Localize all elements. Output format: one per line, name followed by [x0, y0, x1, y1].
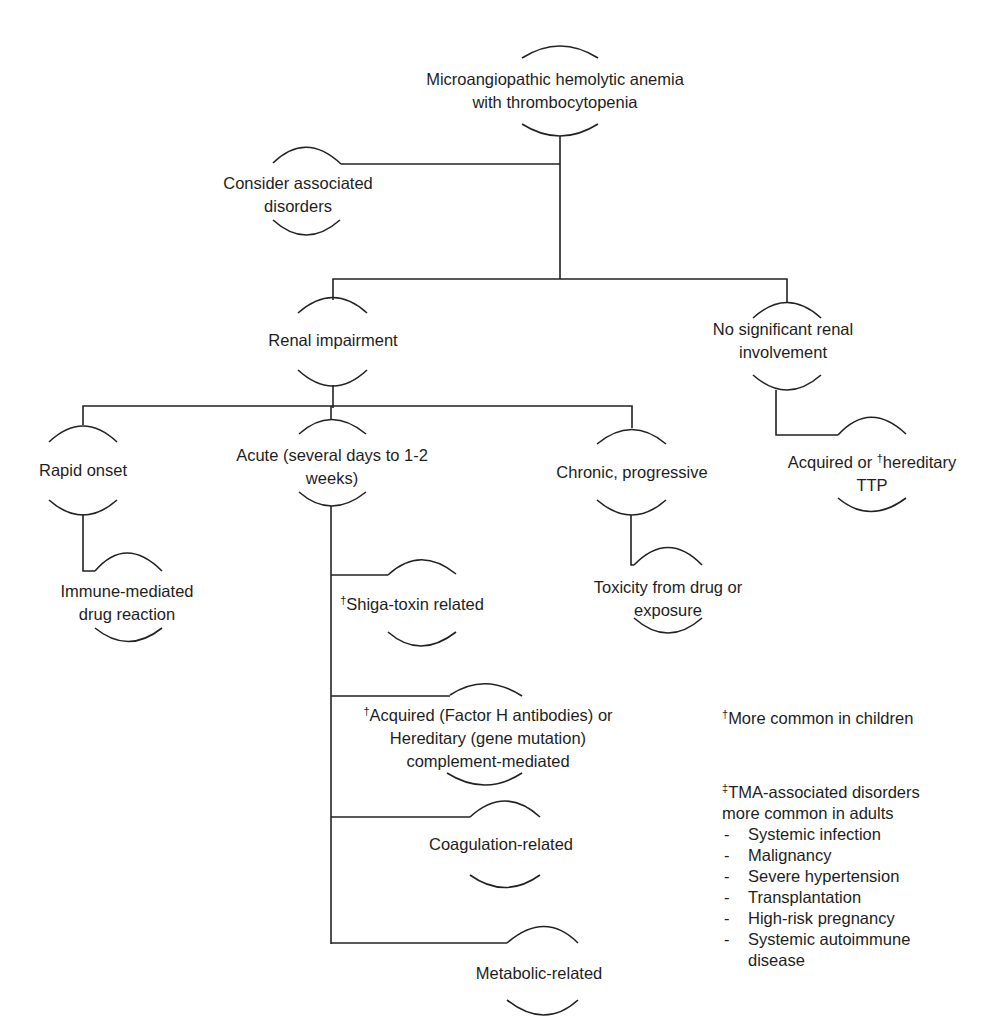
node-immune-drug-reaction: Immune-mediated drug reaction [61, 580, 194, 626]
metabolic-bottom-arc [507, 1000, 578, 1015]
legend-adults-title-line1: ‡TMA-associated disorders [722, 782, 920, 803]
complement-bottom-arc [447, 773, 522, 785]
legend-list-item: -Severe hypertension [722, 866, 920, 887]
complement-top-arc [450, 684, 522, 696]
legend-adults-list: -Systemic infection -Malignancy -Severe … [722, 824, 920, 971]
node-complement-line1: †Acquired (Factor H antibodies) or [363, 704, 612, 727]
coagulation-top-arc [470, 801, 540, 817]
node-chronic-progressive: Chronic, progressive [556, 461, 707, 484]
level1-branch [333, 279, 787, 302]
legend-list-item-continuation: disease [722, 950, 920, 971]
metabolic-top-arc [507, 927, 578, 944]
legend-list-item: -Systemic autoimmune [722, 929, 920, 950]
acute-top-arc [299, 420, 366, 435]
shiga-bottom-arc [388, 632, 456, 646]
node-root: Microangiopathic hemolytic anemia with t… [426, 68, 684, 114]
immune-bottom-arc [95, 628, 162, 642]
legend-list-item: -Malignancy [722, 845, 920, 866]
node-immune-line1: Immune-mediated [61, 580, 194, 603]
rapid-to-immune [83, 514, 95, 571]
associated-top-arc [273, 147, 341, 164]
node-root-line1: Microangiopathic hemolytic anemia [426, 68, 684, 91]
root-top-arc [522, 46, 598, 58]
ttp-top-arc [838, 417, 906, 435]
acute-bottom-arc [299, 492, 366, 506]
node-ttp-line1: Acquired or †hereditary [788, 451, 956, 474]
norenal-top-arc [753, 303, 821, 319]
associated-bottom-arc [273, 220, 340, 235]
norenal-bottom-arc [753, 375, 821, 390]
node-acute: Acute (several days to 1-2 weeks) [236, 444, 428, 490]
legend-list-item: -High-risk pregnancy [722, 908, 920, 929]
renal-bottom-arc [298, 370, 367, 386]
node-toxicity: Toxicity from drug or exposure [594, 576, 743, 622]
rapid-bottom-arc [49, 500, 117, 515]
chronic-bottom-arc [597, 500, 666, 515]
root-bottom-arc [522, 124, 598, 136]
shiga-top-arc [388, 560, 456, 575]
node-complement-line2: Hereditary (gene mutation) [363, 727, 612, 750]
level2-branch [83, 406, 632, 428]
node-associated-line2: disorders [223, 195, 373, 218]
ttp-bottom-arc [838, 498, 906, 512]
node-renal-impairment: Renal impairment [268, 329, 397, 352]
node-rapid-onset: Rapid onset [39, 459, 127, 482]
legend-adults-title-line2: more common in adults [722, 803, 920, 824]
node-associated-line1: Consider associated [223, 172, 373, 195]
node-coagulation: Coagulation-related [429, 833, 573, 856]
node-rapid-line1: Rapid onset [39, 459, 127, 482]
chronic-to-toxicity [631, 515, 634, 565]
node-renal-line1: Renal impairment [268, 329, 397, 352]
legend-list-item: -Systemic infection [722, 824, 920, 845]
toxicity-top-arc [634, 548, 702, 566]
node-shiga-line1: †Shiga-toxin related [340, 593, 484, 616]
node-metabolic-line1: Metabolic-related [476, 962, 603, 985]
node-root-line2: with thrombocytopenia [426, 91, 684, 114]
node-immune-line2: drug reaction [61, 603, 194, 626]
node-ttp: Acquired or †hereditary TTP [788, 451, 956, 497]
node-norenal-line1: No significant renal [713, 318, 853, 341]
legend-adults-note: ‡TMA-associated disorders more common in… [722, 782, 920, 971]
node-ttp-line2: TTP [788, 474, 956, 497]
coagulation-bottom-arc [470, 875, 540, 888]
node-metabolic: Metabolic-related [476, 962, 603, 985]
node-complement-line3: complement-mediated [363, 750, 612, 773]
legend-list-item: -Transplantation [722, 887, 920, 908]
legend-children-text: More common in children [728, 709, 913, 727]
node-consider-associated: Consider associated disorders [223, 172, 373, 218]
chronic-top-arc [597, 430, 666, 445]
node-acute-line2: weeks) [236, 467, 428, 490]
node-no-renal-involvement: No significant renal involvement [713, 318, 853, 364]
node-toxicity-line1: Toxicity from drug or [594, 576, 743, 599]
rapid-top-arc [49, 426, 117, 442]
node-shiga-toxin: †Shiga-toxin related [340, 593, 484, 616]
node-toxicity-line2: exposure [594, 599, 743, 622]
node-chronic-line1: Chronic, progressive [556, 461, 707, 484]
norenal-to-ttp [776, 390, 838, 435]
node-coagulation-line1: Coagulation-related [429, 833, 573, 856]
node-complement-mediated: †Acquired (Factor H antibodies) or Hered… [363, 704, 612, 773]
node-acute-line1: Acute (several days to 1-2 [236, 444, 428, 467]
legend-children-note: †More common in children [722, 708, 913, 729]
immune-top-arc [95, 553, 162, 571]
node-norenal-line2: involvement [713, 341, 853, 364]
